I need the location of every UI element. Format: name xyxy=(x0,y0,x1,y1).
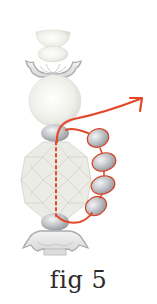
bottom-bead-cap xyxy=(23,231,88,255)
side-bead-3 xyxy=(89,173,117,197)
beading-diagram xyxy=(0,0,157,304)
side-bead-1 xyxy=(85,126,112,150)
round-bead-small xyxy=(38,46,68,62)
top-cup-bead xyxy=(36,30,70,48)
gray-spacer-top xyxy=(41,124,69,142)
figure-caption: fig 5 xyxy=(0,266,157,294)
thread-top-curve xyxy=(66,129,88,133)
top-bead-cap xyxy=(26,61,81,77)
